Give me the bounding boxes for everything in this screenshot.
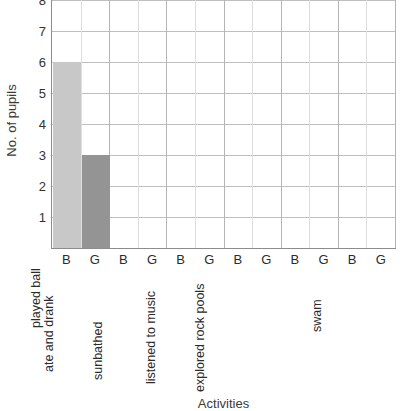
bar — [82, 155, 110, 248]
x-axis-title: Activities — [52, 396, 395, 411]
gridline-vertical — [366, 0, 367, 248]
group-label-b: B — [52, 252, 81, 268]
x-axis-line — [52, 248, 396, 249]
group-tick-labels: BGBGBGBGBGBG — [52, 252, 395, 270]
y-tick-label: 3 — [22, 149, 46, 162]
group-label-g: G — [81, 252, 110, 268]
group-label-g: G — [138, 252, 167, 268]
y-tick-label: 6 — [22, 56, 46, 69]
y-tick-label: 8 — [22, 0, 46, 7]
category-axis-labels: played ballate and dranksunbathedlistene… — [52, 272, 395, 392]
gridline-category-divider — [224, 0, 225, 248]
gridline-category-divider — [395, 0, 396, 248]
gridline-vertical — [252, 0, 253, 248]
group-label-g: G — [195, 252, 224, 268]
gridline-vertical — [195, 0, 196, 248]
gridline-vertical — [138, 0, 139, 248]
y-tick-label: 7 — [22, 25, 46, 38]
gridline-vertical — [309, 0, 310, 248]
group-label-b: B — [224, 252, 253, 268]
group-label-b: B — [166, 252, 195, 268]
gridline-category-divider — [281, 0, 282, 248]
gridline-category-divider — [166, 0, 167, 248]
group-label-g: G — [252, 252, 281, 268]
category-label: swam — [311, 299, 371, 332]
y-tick-label: 5 — [22, 87, 46, 100]
group-label-g: G — [366, 252, 395, 268]
y-axis-tick-labels: 12345678 — [22, 0, 46, 260]
y-tick-label: 2 — [22, 180, 46, 193]
y-axis-title-text: No. of pupils — [4, 84, 19, 156]
y-axis-line — [51, 0, 52, 249]
plot-area — [52, 0, 395, 248]
group-label-b: B — [109, 252, 138, 268]
category-label: explored rock pools — [194, 284, 314, 392]
group-label-b: B — [281, 252, 310, 268]
group-label-g: G — [309, 252, 338, 268]
gridline-category-divider — [338, 0, 339, 248]
bar — [53, 62, 81, 248]
y-tick-label: 1 — [22, 211, 46, 224]
group-label-b: B — [338, 252, 367, 268]
y-tick-label: 4 — [22, 118, 46, 131]
y-axis-title: No. of pupils — [0, 60, 22, 180]
